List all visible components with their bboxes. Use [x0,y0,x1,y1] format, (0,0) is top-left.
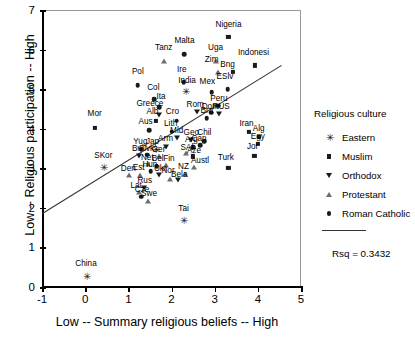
data-point-tanz[interactable] [161,58,167,63]
triangle-down-icon [322,173,336,178]
legend-item-eastern[interactable]: Eastern [314,128,414,147]
point-label-mor: Mor [88,110,102,118]
point-label-tai: Tai [178,205,188,213]
legend-title: Religious culture [314,108,414,119]
point-label-zim: Zim [205,56,219,64]
legend-item-muslim[interactable]: Muslim [314,147,414,166]
point-label-eslv: ESlv [217,73,234,81]
data-point-eslv[interactable] [225,87,230,92]
data-point-mld[interactable] [174,136,180,141]
legend-items: EasternMuslimOrthodoxProtestantRoman Cat… [314,128,414,223]
data-point-tai[interactable] [180,216,187,223]
y-tick-label: 1 [29,242,35,252]
point-label-bela: Bela [171,171,187,179]
x-tick-label: 0 [82,294,88,305]
y-tick-label: 3 [29,163,35,173]
data-point-den[interactable] [126,173,132,178]
y-tick-label: 2 [29,203,35,213]
triangle-up-icon [322,192,336,197]
point-label-fin: Fin [163,155,174,163]
point-label-egy: Egy [251,133,265,141]
data-point-rus[interactable] [216,111,222,116]
y-tick-label: 6 [29,45,35,55]
data-point-austl[interactable] [191,165,197,170]
point-label-rus: RUS [212,103,229,111]
legend-item-label: Eastern [342,132,375,143]
data-point-rom[interactable] [194,110,200,115]
plot-area: 01234567 -1012345 NigeriaMaltaTanzUgaInd… [42,10,301,287]
legend-item-orthodox[interactable]: Orthodox [314,166,414,185]
point-label-india: India [178,77,196,85]
square-icon [322,154,336,158]
point-label-cro: Cro [166,108,179,116]
data-point-china[interactable] [83,272,90,279]
y-tick-label: 4 [29,124,35,134]
x-tick-label: 4 [255,294,261,305]
point-label-pol: Pol [132,68,144,76]
data-point-skor[interactable] [100,164,107,171]
data-point-hun[interactable] [148,169,153,174]
legend-item-label: Protestant [342,189,386,200]
point-label-ire: Ire [177,66,187,74]
point-label-iran: Iran [240,120,254,128]
point-label-malta: Malta [174,37,194,45]
x-tick-label: 2 [168,294,174,305]
x-tick [301,286,303,292]
point-label-den: Den [121,165,136,173]
x-tick-label: -1 [37,294,47,305]
point-label-aze: Aze [187,147,201,155]
point-label-swe: Swe [141,190,157,198]
point-label-china: China [75,260,96,268]
x-tick-label: 5 [298,294,304,305]
data-point-pol[interactable] [136,83,141,88]
data-point-mor[interactable] [93,126,97,130]
point-label-nigeria: Nigeria [215,21,241,29]
data-point-bra[interactable] [205,116,210,121]
legend-item-label: Orthodox [342,170,381,181]
point-label-arm: Arm [158,135,173,143]
legend-item-label: Muslim [342,151,372,162]
data-point-alb[interactable] [154,119,158,123]
data-point-jor[interactable] [252,154,256,158]
data-point-indonesi[interactable] [253,63,257,67]
y-tick-label: 0 [29,282,35,292]
asterisk-icon [322,134,336,141]
legend-item-roman-catholic[interactable]: Roman Catholic [314,204,414,223]
x-axis-title: Low -- Summary religious beliefs -- High [34,315,300,329]
data-point-swe[interactable] [145,198,151,203]
point-label-tanz: Tanz [155,44,172,52]
point-label-jor: Jor [247,143,258,151]
point-label-uga: Uga [208,44,223,52]
point-label-aus: Aus [139,118,153,126]
point-label-bra: Bra [201,107,214,115]
point-label-bul: Bul [132,145,144,153]
data-point-india[interactable] [182,88,189,95]
y-tick-label: 5 [29,84,35,94]
data-point-aus[interactable] [147,128,152,133]
legend: Religious culture EasternMuslimOrthodoxP… [314,108,414,259]
legend-item-label: Roman Catholic [342,208,410,219]
data-point-malta[interactable] [182,52,187,57]
rsq-label: Rsq = 0.3432 [332,248,414,259]
point-label-mex: Mex [200,78,215,86]
x-tick-label: 3 [211,294,217,305]
scatter-plot-figure: Low -- Religious participation -- High L… [0,0,415,339]
point-label-bng: Bng [220,61,235,69]
point-label-austl: Austl [191,157,209,165]
y-tick-label: 7 [29,5,35,15]
legend-fit-line-swatch [322,230,366,231]
point-label-alb: Alb [147,108,159,116]
point-label-indonesi: Indonesi [238,49,269,57]
data-point-turk[interactable] [226,166,230,170]
x-tick-label: 1 [125,294,131,305]
legend-item-protestant[interactable]: Protestant [314,185,414,204]
data-point-nigeria[interactable] [226,35,230,39]
point-label-skor: SKor [94,152,112,160]
circle-icon [322,211,336,216]
point-label-turk: Turk [218,154,234,162]
